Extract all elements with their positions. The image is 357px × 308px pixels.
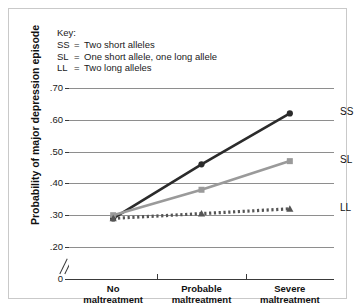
series-container — [69, 88, 334, 279]
y-axis-tick — [65, 183, 69, 184]
x-axis-category-label: Severemaltreatment — [246, 283, 334, 305]
data-point-marker — [198, 161, 204, 167]
y-axis-tick — [65, 152, 69, 153]
x-axis-category-line2: maltreatment — [157, 294, 245, 305]
y-axis-tick — [65, 215, 69, 216]
series-label-ss: SS — [340, 106, 353, 117]
data-point-marker — [287, 110, 293, 116]
x-axis-category-label: Probablemaltreatment — [157, 283, 245, 305]
y-axis-tick — [65, 88, 69, 89]
x-axis-tick — [157, 274, 158, 280]
key-text-ss: Two short alleles — [84, 39, 155, 50]
y-axis-tick — [65, 247, 69, 248]
key-text-ll: Two long alleles — [84, 62, 152, 73]
y-axis-labels: .20.30.40.50.60.700 — [9, 9, 63, 308]
series-label-sl: SL — [340, 154, 352, 165]
x-axis-category-line1: No — [69, 283, 157, 294]
figure-frame: Key: SS=Two short alleles SL=One short a… — [8, 8, 347, 299]
chart-key: Key: SS=Two short alleles SL=One short a… — [57, 27, 217, 74]
x-axis-category-line2: maltreatment — [246, 294, 334, 305]
y-axis-tick-label: .20 — [50, 241, 63, 252]
key-entry-ss: SS=Two short alleles — [57, 39, 217, 51]
y-axis-tick-label: .40 — [50, 177, 63, 188]
x-axis-tick — [246, 274, 247, 280]
key-entry-sl: SL=One short allele, one long allele — [57, 51, 217, 63]
plot-area — [69, 88, 334, 279]
key-eq-sl: = — [74, 51, 84, 63]
series-ss — [110, 110, 293, 221]
y-axis-tick-label: .50 — [50, 146, 63, 157]
y-axis-tick-label: .30 — [50, 209, 63, 220]
key-title: Key: — [57, 27, 217, 39]
x-axis-line — [69, 279, 334, 280]
data-point-marker — [287, 158, 293, 164]
key-eq-ll: = — [74, 62, 84, 74]
x-axis-category-line2: maltreatment — [69, 294, 157, 305]
y-axis-tick-label: .70 — [50, 82, 63, 93]
y-axis-tick-label: .60 — [50, 114, 63, 125]
data-point-marker — [199, 187, 205, 193]
x-axis-category-label: Nomaltreatment — [69, 283, 157, 305]
y-axis-tick — [65, 120, 69, 121]
y-axis-tick — [65, 279, 69, 280]
data-point-marker — [198, 210, 205, 216]
x-axis-category-line1: Severe — [246, 283, 334, 294]
x-axis-category-line1: Probable — [157, 283, 245, 294]
series-label-ll: LL — [340, 202, 351, 213]
key-entry-ll: LL=Two long alleles — [57, 62, 217, 74]
key-text-sl: One short allele, one long allele — [84, 51, 217, 62]
key-eq-ss: = — [74, 39, 84, 51]
